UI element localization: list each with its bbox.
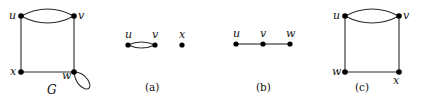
label-c-w: w (332, 65, 342, 78)
vertex-G-u (18, 13, 24, 19)
graph-b: u v w (b) (233, 27, 296, 93)
label-G-w: w (62, 69, 72, 82)
edge-c-uv-upper (345, 9, 399, 16)
vertex-G-x (18, 69, 24, 75)
label-a-u: u (125, 28, 132, 41)
edge-G-w-loop (74, 72, 90, 89)
vertex-c-w (342, 69, 348, 75)
caption-a: (a) (145, 81, 159, 93)
graph-G-name: G (47, 83, 57, 97)
graph-G: u v x w G (9, 9, 90, 97)
caption-b: (b) (256, 81, 271, 93)
edge-c-uv-lower (345, 16, 399, 23)
label-G-u: u (9, 9, 16, 22)
graph-c: u v w x (c) (332, 9, 410, 93)
vertex-a-x (179, 42, 184, 47)
label-G-v: v (78, 9, 85, 22)
label-c-v: v (403, 9, 410, 22)
edge-a-uv-upper (128, 42, 155, 45)
edge-G-uv-upper (21, 9, 74, 16)
label-G-x: x (10, 65, 17, 78)
vertex-a-u (125, 42, 130, 47)
vertex-b-w (287, 41, 292, 46)
vertex-b-u (233, 41, 238, 46)
edge-a-uv-lower (128, 45, 155, 48)
caption-c: (c) (355, 81, 369, 93)
vertex-c-u (342, 13, 348, 19)
label-b-v: v (260, 27, 267, 40)
label-b-u: u (233, 27, 240, 40)
edge-G-uv-lower (21, 16, 74, 23)
vertex-c-v (396, 13, 402, 19)
label-a-v: v (152, 28, 159, 41)
vertex-G-v (71, 13, 77, 19)
vertex-G-w (71, 69, 77, 75)
label-c-x: x (393, 74, 400, 87)
graph-figure: u v x w G u v x (a) u v w (b) (0, 0, 422, 105)
label-b-w: w (286, 27, 296, 40)
graph-a: u v x (a) (125, 28, 186, 93)
label-a-x: x (179, 28, 186, 41)
vertex-a-v (152, 42, 157, 47)
vertex-b-v (260, 41, 265, 46)
label-c-u: u (333, 9, 340, 22)
